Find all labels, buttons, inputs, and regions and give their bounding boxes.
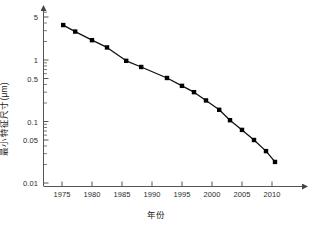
data-point-marker: [273, 160, 277, 164]
x-axis-title: 年份: [0, 208, 313, 220]
axis-lines: [44, 10, 304, 187]
data-point-marker: [192, 90, 196, 94]
chart-container: 510.50.10.050.01 19751980198519901995200…: [0, 0, 313, 226]
data-point-marker: [217, 108, 221, 112]
x-tick-label: 1980: [83, 190, 100, 199]
data-point-marker: [73, 29, 77, 33]
data-series-line: [63, 25, 275, 162]
x-tick-label: 2000: [203, 190, 220, 199]
y-tick-label: 1: [0, 56, 38, 65]
x-tick-label: 2010: [263, 190, 280, 199]
y-tick-label: 0.01: [0, 179, 38, 188]
x-tick-label: 1995: [173, 190, 190, 199]
x-tick-label: 1985: [113, 190, 130, 199]
data-point-marker: [124, 59, 128, 63]
data-point-marker: [180, 84, 184, 88]
data-point-marker: [228, 118, 232, 122]
data-point-marker: [240, 128, 244, 132]
data-point-marker: [165, 76, 169, 80]
data-point-marker: [139, 65, 143, 69]
x-tick-marks: [62, 182, 272, 187]
x-tick-label: 1990: [143, 190, 160, 199]
y-tick-label: 5: [0, 13, 38, 22]
data-point-marker: [90, 38, 94, 42]
data-series-markers: [61, 23, 277, 164]
data-point-marker: [252, 138, 256, 142]
x-tick-label: 1975: [53, 190, 70, 199]
x-tick-label: 2005: [233, 190, 250, 199]
y-tick-marks: [44, 12, 49, 183]
data-point-marker: [264, 149, 268, 153]
data-point-marker: [204, 98, 208, 102]
y-axis-title: 最小特征尺寸(μm): [0, 82, 9, 156]
data-point-marker: [61, 23, 65, 27]
data-point-marker: [105, 45, 109, 49]
